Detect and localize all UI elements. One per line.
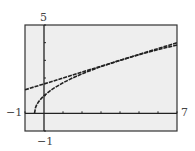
- y-max-label: 5: [40, 12, 47, 23]
- x-min-label: −1: [6, 107, 22, 118]
- y-min-label: −1: [37, 136, 53, 147]
- graph-plot: [0, 0, 195, 151]
- x-max-label: 7: [181, 107, 188, 118]
- plot-frame: [25, 25, 177, 131]
